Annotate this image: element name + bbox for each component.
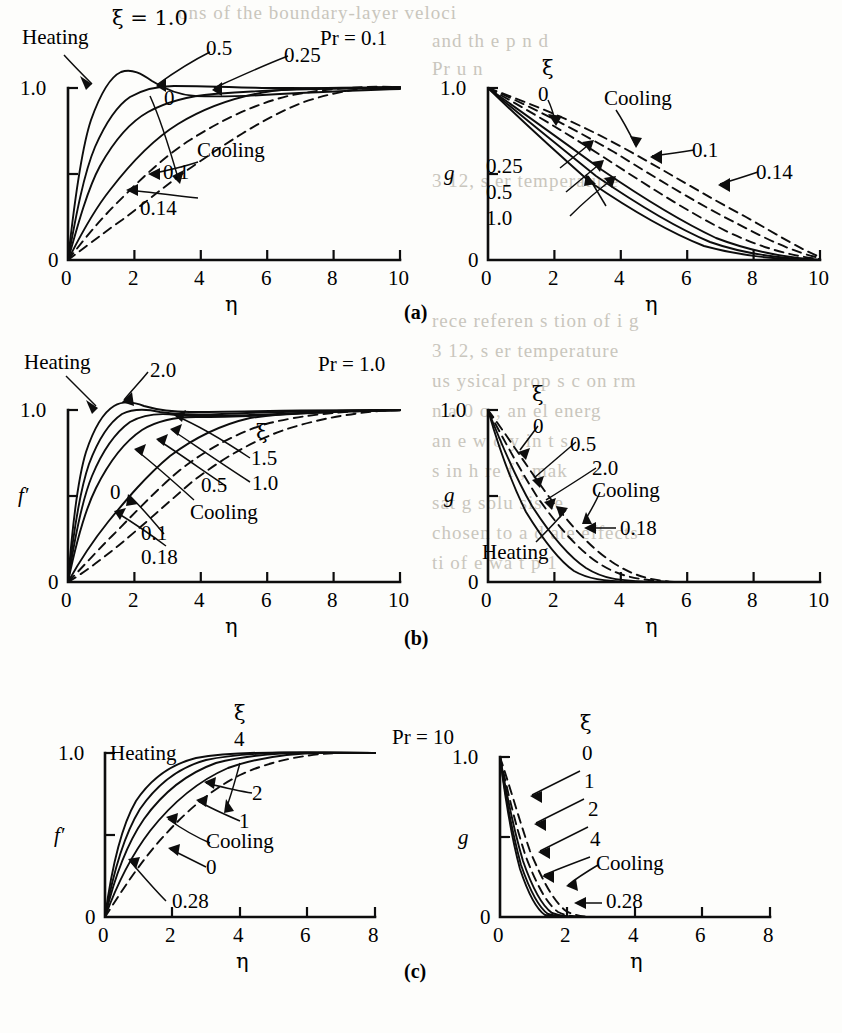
xi-label-0.14: 0.14 <box>756 162 793 183</box>
xi-label-0.25: 0.25 <box>486 156 523 177</box>
y-axis-label: f′ <box>18 485 28 506</box>
x-tick-2: 2 <box>128 268 139 289</box>
x-axis-label: η <box>236 951 249 972</box>
annotation-heating: Heating <box>22 27 88 48</box>
curves <box>68 71 400 260</box>
panel-a-left-plot: 1.0 0 0 2 4 6 8 10 η ξ = 1.0 Heating Coo… <box>0 0 420 320</box>
x-tick-6: 6 <box>300 925 311 946</box>
annotation-heating: Heating <box>482 542 548 563</box>
arrowheads <box>530 791 586 909</box>
xi-head-label: ξ <box>532 384 544 405</box>
xi-label-0: 0 <box>533 416 544 437</box>
xi-label-0.1: 0.1 <box>163 162 189 183</box>
y-axis-label: f′ <box>54 825 64 846</box>
curve-xi-0.14 <box>68 87 400 260</box>
panel-id-b: (b) <box>404 628 428 648</box>
x-tick-8: 8 <box>763 925 774 946</box>
x-tick-4: 4 <box>614 268 625 289</box>
x-tick-6: 6 <box>261 268 272 289</box>
y-tick-1.0: 1.0 <box>452 747 478 768</box>
panel-a: 1.0 0 0 2 4 6 8 10 η ξ = 1.0 Heating Coo… <box>0 0 842 330</box>
annotation-heating: Heating <box>24 352 90 373</box>
xi-label-0.14: 0.14 <box>140 198 177 219</box>
x-tick-10: 10 <box>388 268 409 289</box>
pr-label: Pr = 0.1 <box>320 28 387 49</box>
x-tick-6: 6 <box>695 925 706 946</box>
y-axis-label: g <box>458 827 469 848</box>
curve-xi-4 <box>500 757 576 917</box>
annotation-cooling: Cooling <box>206 831 274 852</box>
panel-b-right-plot: 1.0 0 g 0 2 4 6 8 10 η ξ 0 0.5 2.0 0.18 … <box>420 330 842 650</box>
xi-label-4: 4 <box>590 829 601 850</box>
x-tick-2: 2 <box>548 590 559 611</box>
pr-label: Pr = 10 <box>392 727 454 748</box>
x-tick-2: 2 <box>548 268 559 289</box>
x-tick-0: 0 <box>61 268 72 289</box>
panel-c-left-plot: 1.0 0 f′ 0 2 4 6 8 η ξ 4 2 1 0 0.28 Heat… <box>0 665 420 965</box>
panel-a-right-plot: 1.0 0 g 0 2 4 6 8 10 η ξ 0 0.25 0.5 1.0 … <box>420 0 842 320</box>
panel-c-right-plot: 1.0 0 g 0 2 4 6 8 η ξ 0 1 2 4 0.28 Cooli… <box>420 665 842 965</box>
xi-label-0.1: 0.1 <box>692 140 718 161</box>
annotation-cooling: Cooling <box>197 140 265 161</box>
y-axis-label: g <box>444 163 455 184</box>
annotation-cooling: Cooling <box>604 88 672 109</box>
y-tick-0: 0 <box>468 572 479 593</box>
x-tick-0: 0 <box>481 268 492 289</box>
panel-c: 1.0 0 f′ 0 2 4 6 8 η ξ 4 2 1 0 0.28 Heat… <box>0 665 842 1033</box>
x-tick-8: 8 <box>368 925 379 946</box>
x-tick-2: 2 <box>165 925 176 946</box>
y-tick-0: 0 <box>468 250 479 271</box>
x-tick-8: 8 <box>747 590 758 611</box>
y-tick-1.0: 1.0 <box>20 400 46 421</box>
xi-label-0: 0 <box>164 88 175 109</box>
xi-label-0.5: 0.5 <box>486 182 512 203</box>
y-tick-1.0: 1.0 <box>440 400 466 421</box>
x-tick-6: 6 <box>261 590 272 611</box>
xi-head-label: ξ <box>256 422 268 443</box>
xi-label-2.0: 2.0 <box>592 458 618 479</box>
y-tick-1.0: 1.0 <box>440 78 466 99</box>
curve-xi-0.5 <box>68 86 400 260</box>
y-tick-0: 0 <box>48 250 59 271</box>
xi-label-4: 4 <box>234 729 245 750</box>
xi-label-0: 0 <box>110 482 121 503</box>
xi-label-1: 1 <box>584 771 595 792</box>
x-tick-6: 6 <box>681 590 692 611</box>
x-tick-4: 4 <box>194 268 205 289</box>
xi-head-label: ξ <box>234 703 246 724</box>
xi-label-0.5: 0.5 <box>201 475 227 496</box>
xi-label-1.0: 1.0 <box>486 208 512 229</box>
annotation-cooling: Cooling <box>190 502 258 523</box>
x-tick-10: 10 <box>808 590 829 611</box>
y-tick-0: 0 <box>48 572 59 593</box>
annotation-cooling: Cooling <box>592 480 660 501</box>
xi-label-0.5: 0.5 <box>206 38 232 59</box>
xi-label-0.1: 0.1 <box>141 523 167 544</box>
x-tick-0: 0 <box>61 590 72 611</box>
pr-label: Pr = 1.0 <box>318 354 385 375</box>
y-tick-1.0: 1.0 <box>20 78 46 99</box>
xi-label-0.28: 0.28 <box>606 891 643 912</box>
panel-id-c: (c) <box>404 961 426 981</box>
x-tick-8: 8 <box>327 590 338 611</box>
xi-label-2: 2 <box>252 783 263 804</box>
xi-label-0.18: 0.18 <box>141 547 178 568</box>
xi-label-0.18: 0.18 <box>620 518 657 539</box>
x-tick-10: 10 <box>808 268 829 289</box>
x-tick-0: 0 <box>481 590 492 611</box>
x-tick-10: 10 <box>388 590 409 611</box>
xi-head-label: ξ = 1.0 <box>112 8 188 29</box>
xi-label-1.0: 1.0 <box>252 473 278 494</box>
x-tick-6: 6 <box>681 268 692 289</box>
annotation-cooling: Cooling <box>596 853 664 874</box>
axes <box>68 88 400 260</box>
xi-head-label: ξ <box>542 58 554 79</box>
x-axis-label: η <box>630 951 643 972</box>
xi-label-1.5: 1.5 <box>251 448 277 469</box>
xi-label-2.0: 2.0 <box>150 360 176 381</box>
x-axis-label: η <box>225 616 238 637</box>
panel-b-left-plot: 1.0 0 f′ 0 2 4 6 8 10 η Heating Cooling … <box>0 330 420 650</box>
x-tick-4: 4 <box>194 590 205 611</box>
y-tick-0: 0 <box>85 907 96 928</box>
x-tick-8: 8 <box>747 268 758 289</box>
